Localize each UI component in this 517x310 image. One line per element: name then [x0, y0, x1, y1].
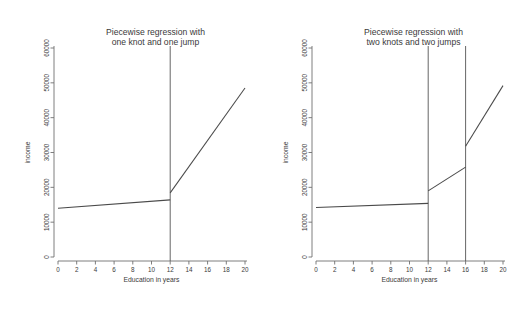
y-axis-title: income [282, 141, 289, 163]
y-tick-label: 10000 [43, 213, 50, 231]
chart-title-line-2: two knots and two jumps [366, 37, 460, 47]
x-tick-label: 4 [94, 266, 98, 273]
x-tick-label: 6 [112, 266, 116, 273]
x-axis-title: Education in years [382, 276, 439, 284]
knot-lines [428, 46, 465, 261]
y-tick-label: 0 [301, 255, 308, 259]
chart-title-line-2: one knot and one jump [112, 37, 200, 47]
x-tick-label: 6 [370, 266, 374, 273]
regression-segments [316, 86, 503, 208]
x-tick-label: 12 [425, 266, 433, 273]
x-axis-ticks: 02468101214161820 [56, 261, 249, 273]
y-tick-label: 60000 [301, 39, 308, 57]
x-tick-label: 18 [223, 266, 231, 273]
y-tick-label: 40000 [43, 108, 50, 126]
chart-panel-left: Piecewise regression withone knot and on… [0, 0, 259, 310]
x-tick-label: 14 [443, 266, 451, 273]
y-tick-label: 50000 [301, 74, 308, 92]
x-tick-label: 2 [333, 266, 337, 273]
x-tick-label: 10 [148, 266, 156, 273]
y-tick-label: 30000 [43, 143, 50, 161]
x-tick-label: 20 [499, 266, 507, 273]
y-tick-label: 40000 [301, 108, 308, 126]
figure-canvas: Piecewise regression withone knot and on… [0, 0, 517, 310]
x-axis-title: Education in years [124, 276, 181, 284]
y-axis-title: income [24, 141, 31, 163]
regression-line-segment-after-second-knot [466, 86, 503, 147]
x-tick-label: 20 [241, 266, 249, 273]
y-tick-label: 30000 [301, 143, 308, 161]
x-tick-label: 16 [204, 266, 212, 273]
y-tick-label: 10000 [301, 213, 308, 231]
axes [312, 46, 505, 261]
axes [54, 46, 247, 261]
x-tick-label: 12 [167, 266, 175, 273]
y-tick-label: 20000 [43, 178, 50, 196]
x-tick-label: 18 [481, 266, 489, 273]
regression-line-segment-between-knots [428, 167, 465, 191]
y-tick-label: 20000 [301, 178, 308, 196]
x-tick-label: 4 [352, 266, 356, 273]
piecewise-one-knot-plot: Piecewise regression withone knot and on… [0, 0, 259, 310]
x-tick-label: 0 [314, 266, 318, 273]
x-tick-label: 0 [56, 266, 60, 273]
regression-segments [58, 88, 245, 208]
x-tick-label: 2 [75, 266, 79, 273]
y-axis-ticks: 0100002000030000400005000060000 [301, 39, 312, 259]
y-axis-ticks: 0100002000030000400005000060000 [43, 39, 54, 259]
regression-line-segment-before-knot [58, 200, 170, 208]
y-tick-label: 0 [43, 255, 50, 259]
regression-line-segment-after-knot [170, 88, 245, 193]
chart-title-line-1: Piecewise regression with [364, 27, 463, 37]
piecewise-two-knots-plot: Piecewise regression withtwo knots and t… [258, 0, 517, 310]
x-tick-label: 8 [131, 266, 135, 273]
x-tick-label: 14 [185, 266, 193, 273]
x-axis-ticks: 02468101214161820 [314, 261, 507, 273]
x-tick-label: 8 [389, 266, 393, 273]
regression-line-segment-before-first-knot [316, 203, 428, 207]
y-tick-label: 60000 [43, 39, 50, 57]
y-tick-label: 50000 [43, 74, 50, 92]
chart-panel-right: Piecewise regression withtwo knots and t… [258, 0, 517, 310]
x-tick-label: 16 [462, 266, 470, 273]
chart-title-line-1: Piecewise regression with [106, 27, 205, 37]
x-tick-label: 10 [406, 266, 414, 273]
